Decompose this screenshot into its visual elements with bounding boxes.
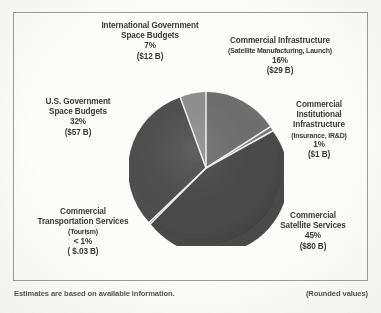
label-commercial-transportation-services: Commercial Transportation Services (Tour… [17,207,149,257]
label-us-government-space-budgets: U.S. Government Space Budgets 32% ($57 B… [22,97,134,138]
label-commercial-infrastructure: Commercial Infrastructure (Satellite Man… [200,36,360,76]
label-line: Commercial [257,211,369,221]
footer-note-rounded: (Rounded values) [306,289,368,298]
label-percent: 32% [22,117,134,127]
label-line: U.S. Government [22,97,134,107]
label-sublabel: (Tourism) [17,227,149,236]
label-commercial-institutional-infrastructure: Commercial Institutional Infrastructure … [272,100,366,160]
label-line: Infrastructure [272,120,366,130]
label-dollars: ($1 B) [272,150,366,160]
label-line: Commercial Infrastructure [200,36,360,46]
label-dollars: ($57 B) [22,128,134,138]
label-sublabel: (Satellite Manufacturing, Launch) [200,46,360,55]
label-line: Space Budgets [22,107,134,117]
label-commercial-satellite-services: Commercial Satellite Services 45% ($80 B… [257,211,369,252]
footer-note-estimates: Estimates are based on available informa… [14,289,175,298]
chart-frame: International Government Space Budgets 7… [13,12,368,281]
label-dollars: ( $.03 B) [17,247,149,257]
label-line: Institutional [272,110,366,120]
label-line: Transportation Services [17,217,149,227]
label-sublabel: (Insurance, IR&D) [272,131,366,140]
label-percent: 45% [257,231,369,241]
label-line: International Government [75,21,225,31]
label-percent: 1% [272,140,366,150]
label-line: Commercial [17,207,149,217]
chart-page: International Government Space Budgets 7… [0,0,381,313]
label-percent: < 1% [17,237,149,247]
label-percent: 16% [200,56,360,66]
label-line: Commercial [272,100,366,110]
label-line: Satellite Services [257,221,369,231]
label-dollars: ($29 B) [200,66,360,76]
label-dollars: ($80 B) [257,242,369,252]
